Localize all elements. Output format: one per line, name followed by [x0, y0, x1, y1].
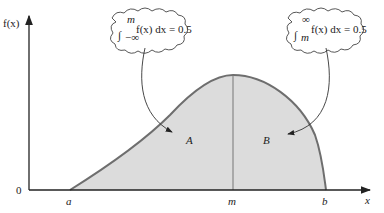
origin-label: 0 — [16, 184, 22, 196]
right-integral-upper: ∞ — [302, 13, 310, 25]
left-integral-upper: m — [127, 13, 135, 25]
right-integral-lower: m — [301, 31, 309, 43]
y-axis-label: f(x) — [3, 17, 20, 30]
tick-b: b — [322, 195, 328, 207]
left-integral-body: f(x) dx = 0.5 — [136, 23, 192, 36]
median-diagram: f(x) x 0 a m b A B ∫ m −∞ f(x) dx = 0.5 … — [0, 0, 384, 213]
region-a-label: A — [185, 134, 193, 146]
x-axis-label: x — [364, 194, 370, 206]
tick-m: m — [228, 195, 236, 207]
region-b-label: B — [263, 134, 270, 146]
density-area — [70, 75, 326, 190]
right-integral-body: f(x) dx = 0.5 — [311, 23, 367, 36]
tick-a: a — [66, 195, 72, 207]
